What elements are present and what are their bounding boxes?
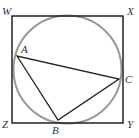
- vertex-label-x: X: [126, 5, 135, 17]
- vertex-labels: WXYZABC: [2, 5, 135, 136]
- vertex-label-c: C: [125, 73, 133, 85]
- vertex-label-w: W: [2, 5, 12, 17]
- vertex-label-z: Z: [2, 118, 9, 130]
- vertex-label-y: Y: [127, 118, 135, 130]
- geometry-diagram: WXYZABC: [0, 0, 139, 138]
- inscribed-circle: [14, 16, 122, 124]
- vertex-label-a: A: [20, 43, 28, 55]
- vertex-label-b: B: [52, 124, 59, 136]
- diagram-svg: WXYZABC: [0, 0, 139, 138]
